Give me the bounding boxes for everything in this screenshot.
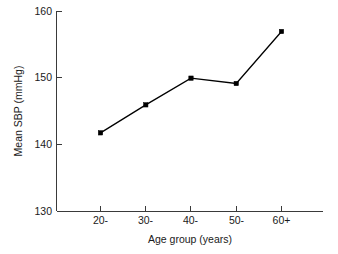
data-point-2	[189, 76, 193, 80]
x-tick-label-0: 20-	[93, 214, 109, 226]
y-axis-title: Mean SBP (mmHg)	[12, 66, 24, 157]
y-tick-label-160: 160	[34, 5, 52, 17]
chart-figure: 160 150 140 130 20- 30- 40- 50- 60+ Age …	[0, 0, 338, 254]
x-tick-label-2: 40-	[183, 214, 199, 226]
x-tick-label-4: 60+	[273, 214, 291, 226]
data-point-1	[144, 103, 148, 107]
line-chart: 160 150 140 130 20- 30- 40- 50- 60+ Age …	[0, 0, 338, 254]
y-tick-label-140: 140	[34, 138, 52, 150]
data-point-4	[279, 29, 283, 33]
x-axis-title: Age group (years)	[148, 233, 232, 245]
data-point-3	[234, 81, 238, 85]
y-tick-label-150: 150	[34, 71, 52, 83]
data-point-0	[98, 131, 102, 135]
x-tick-label-1: 30-	[138, 214, 154, 226]
y-tick-label-130: 130	[34, 205, 52, 217]
x-tick-label-3: 50-	[229, 214, 245, 226]
